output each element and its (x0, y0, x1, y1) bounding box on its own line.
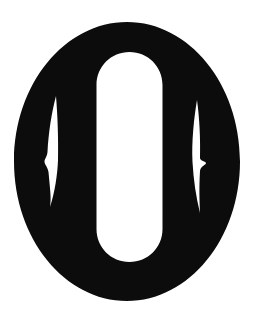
tsuba-silhouette-svg (0, 0, 258, 315)
artwork-canvas: Japanese sword guard silhouette (0, 0, 258, 315)
